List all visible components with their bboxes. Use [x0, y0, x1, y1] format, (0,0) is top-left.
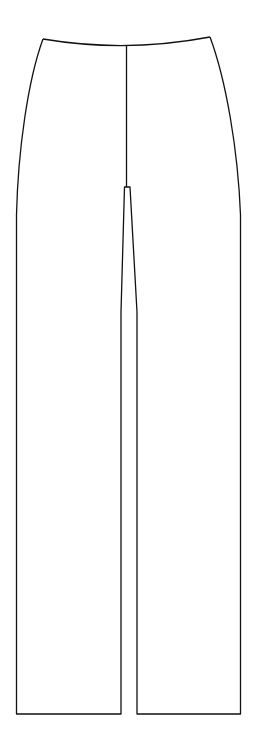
- waistband-edge: [43, 37, 210, 46]
- right-leg-outline: [126, 37, 241, 714]
- trousers-sketch: [0, 0, 267, 734]
- left-leg-outline: [17, 39, 127, 714]
